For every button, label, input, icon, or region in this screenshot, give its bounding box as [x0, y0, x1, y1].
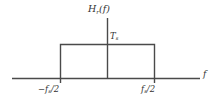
- function-name-label: Hr(f): [88, 4, 110, 16]
- tick-negative-prefix: −f: [38, 84, 48, 94]
- tick-negative-suffix: /2: [51, 84, 59, 94]
- x-axis-label: f: [203, 70, 206, 79]
- amplitude-subscript: s: [116, 35, 119, 41]
- x-tick-label-negative: −fs/2: [38, 85, 59, 95]
- tick-positive-suffix: /2: [147, 84, 155, 94]
- amplitude-label: Ts: [110, 32, 118, 42]
- function-argument: (f): [99, 3, 110, 14]
- filter-response-figure: Hr(f) Ts f −fs/2 fs/2: [0, 0, 217, 106]
- x-tick-label-positive: fs/2: [141, 85, 155, 95]
- plot-canvas: [0, 0, 217, 106]
